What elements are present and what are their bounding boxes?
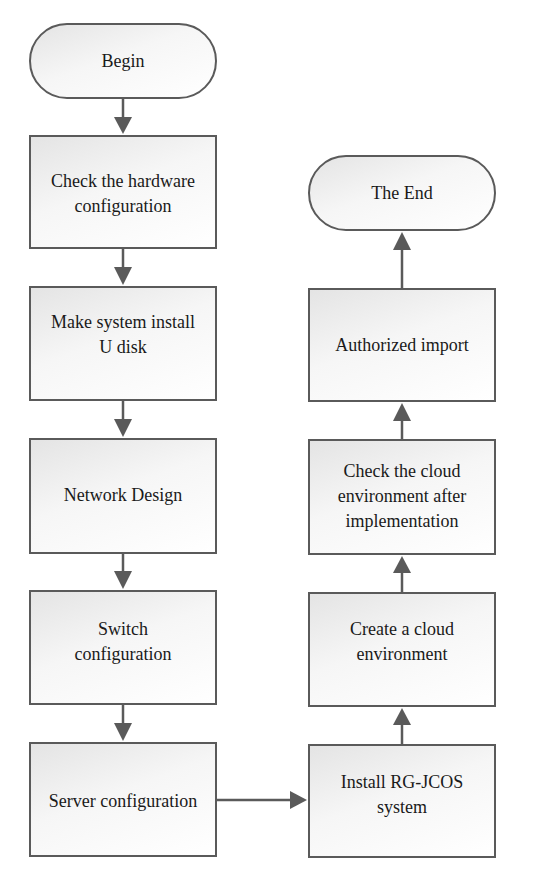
arrow-server-to-install bbox=[217, 791, 307, 809]
node-label-line: environment after bbox=[338, 484, 466, 509]
node-label-line: environment bbox=[350, 642, 454, 667]
node-label-line: system bbox=[341, 795, 464, 820]
node-label: Network Design bbox=[64, 483, 182, 508]
node-network-design: Network Design bbox=[29, 438, 217, 554]
node-label-line: U disk bbox=[51, 335, 195, 360]
node-authorized-import: Authorized import bbox=[308, 288, 496, 402]
arrow-create-cloud-to-check-cloud bbox=[393, 556, 411, 592]
node-label-line: Make system install bbox=[51, 310, 195, 335]
node-label-line: configuration bbox=[75, 642, 172, 667]
node-label-line: implementation bbox=[338, 509, 466, 534]
node-label-line: configuration bbox=[51, 194, 195, 219]
node-label-line: Check the hardware bbox=[51, 169, 195, 194]
node-make-usb: Make system install U disk bbox=[29, 286, 217, 401]
node-label-line: Check the cloud bbox=[338, 459, 466, 484]
node-the-end: The End bbox=[308, 155, 496, 231]
arrow-begin-to-check-hw bbox=[114, 99, 132, 134]
arrow-auth-import-to-end bbox=[393, 232, 411, 288]
node-label-line: Switch bbox=[75, 617, 172, 642]
node-create-cloud: Create a cloud environment bbox=[308, 592, 496, 707]
node-switch-config: Switch configuration bbox=[29, 590, 217, 705]
node-server-config: Server configuration bbox=[29, 742, 217, 857]
node-label-line: Create a cloud bbox=[350, 617, 454, 642]
arrow-install-to-create-cloud bbox=[393, 708, 411, 744]
node-begin: Begin bbox=[29, 23, 217, 99]
node-label: The End bbox=[371, 181, 432, 206]
arrow-check-cloud-to-auth-import bbox=[393, 403, 411, 439]
node-label: Server configuration bbox=[49, 789, 197, 814]
arrow-make-usb-to-network bbox=[114, 401, 132, 437]
node-check-hardware: Check the hardware configuration bbox=[29, 135, 217, 249]
node-install-rg-jcos: Install RG-JCOS system bbox=[308, 744, 496, 858]
arrow-switch-to-server bbox=[114, 705, 132, 741]
node-label: Authorized import bbox=[335, 333, 468, 358]
node-label-line: Install RG-JCOS bbox=[341, 770, 464, 795]
arrow-network-to-switch bbox=[114, 554, 132, 589]
arrow-check-hw-to-make-usb bbox=[114, 249, 132, 285]
node-check-cloud: Check the cloud environment after implem… bbox=[308, 439, 496, 555]
node-label: Begin bbox=[102, 49, 145, 74]
